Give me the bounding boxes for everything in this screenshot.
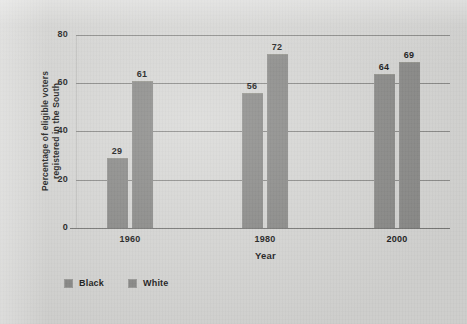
x-tick-1980: 1980 xyxy=(235,234,295,244)
legend-swatch-white-icon xyxy=(128,279,137,288)
y-axis-title-line2: registered in the South xyxy=(51,56,62,206)
bar-2000-black xyxy=(374,74,395,228)
legend-label-white: White xyxy=(143,278,169,288)
bar-2000-white xyxy=(399,62,420,228)
y-axis-title: Percentage of eligible voters registered… xyxy=(18,56,40,206)
x-tick-1960: 1960 xyxy=(100,234,160,244)
legend-label-black: Black xyxy=(79,278,104,288)
bar-value-1980-white: 72 xyxy=(262,42,292,52)
bar-value-2000-black: 64 xyxy=(369,62,399,72)
bar-1960-white xyxy=(132,81,153,228)
y-tick-80: 80 xyxy=(42,30,68,39)
bar-1980-black xyxy=(242,93,263,228)
bar-chart: 80 60 40 20 0 Percentage of eligible vot… xyxy=(0,0,467,324)
bar-1980-white xyxy=(267,54,288,228)
x-tick-2000: 2000 xyxy=(367,234,427,244)
x-axis-title: Year xyxy=(0,250,467,261)
y-tick-0: 0 xyxy=(42,223,68,232)
y-axis-title-line1: Percentage of eligible voters xyxy=(40,56,51,206)
legend-item-black[interactable]: Black xyxy=(64,278,104,288)
chart-page: 80 60 40 20 0 Percentage of eligible vot… xyxy=(0,0,467,324)
bar-value-1960-black: 29 xyxy=(102,146,132,156)
bar-value-1980-black: 56 xyxy=(237,81,267,91)
axis-x-baseline xyxy=(70,228,450,229)
chart-legend: Black White xyxy=(64,278,169,288)
gridline-80 xyxy=(76,35,450,36)
legend-item-white[interactable]: White xyxy=(128,278,169,288)
bar-value-2000-white: 69 xyxy=(394,50,424,60)
bar-value-1960-white: 61 xyxy=(127,69,157,79)
legend-swatch-black-icon xyxy=(64,279,73,288)
bar-1960-black xyxy=(107,158,128,228)
